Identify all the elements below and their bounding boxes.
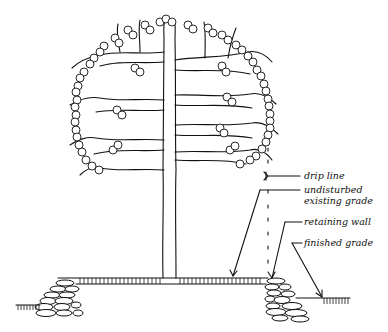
drip-line-marker-icon [264, 172, 268, 180]
leader-finished-grade [292, 243, 322, 297]
annotation-labels: drip line undisturbed existing grade ret… [303, 170, 374, 248]
retaining-wall-right [265, 278, 309, 322]
finished-grade-left [16, 305, 40, 310]
leader-undisturbed-grade [230, 190, 300, 276]
undisturbed-existing-grade [58, 278, 268, 284]
finished-grade-right [296, 298, 350, 304]
label-existing-grade: existing grade [304, 195, 373, 206]
label-drip-line: drip line [304, 170, 345, 181]
tree-trunk [163, 20, 176, 278]
label-finished-grade: finished grade [303, 237, 374, 248]
retaining-wall-left [35, 280, 83, 317]
label-retaining-wall: retaining wall [304, 216, 371, 227]
label-undisturbed: undisturbed [304, 184, 363, 195]
tree-drip-line-diagram: drip line undisturbed existing grade ret… [0, 0, 388, 332]
leader-retaining-wall [268, 222, 302, 278]
